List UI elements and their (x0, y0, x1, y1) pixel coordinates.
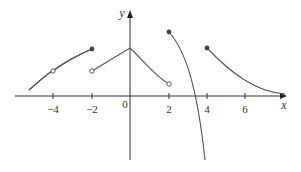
piecewise-function-graph: −4 −2 0 2 4 6 x y (0, 0, 301, 172)
open-point-2 (167, 82, 171, 86)
curve-segment-2 (92, 48, 130, 71)
x-axis-label: x (280, 98, 287, 112)
closed-point-neg2 (90, 47, 95, 52)
closed-point-4 (205, 46, 210, 51)
closed-point-2 (167, 30, 172, 35)
tick-label-4: 4 (204, 103, 210, 115)
open-point-neg4 (51, 69, 55, 73)
curve-segment-1 (29, 49, 92, 90)
y-axis-label: y (118, 6, 125, 20)
open-point-neg2 (90, 69, 94, 73)
curve-segment-3 (130, 48, 169, 84)
tick-label-neg4: −4 (47, 103, 59, 115)
curve-segment-5 (207, 48, 285, 94)
tick-label-6: 6 (242, 103, 248, 115)
tick-label-2: 2 (166, 103, 172, 115)
y-axis-arrow-icon (127, 10, 133, 18)
curve-segment-1-smooth (29, 49, 92, 90)
tick-label-0: 0 (122, 98, 128, 110)
tick-label-neg2: −2 (86, 103, 98, 115)
